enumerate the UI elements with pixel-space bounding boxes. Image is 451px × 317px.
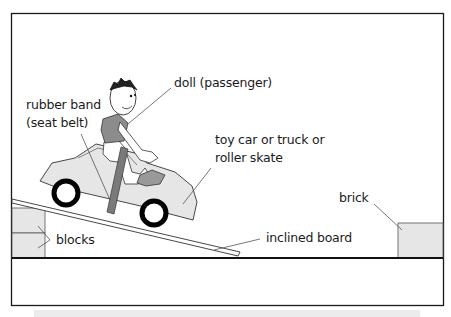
rubber-band-label-line1: rubber band xyxy=(26,96,101,113)
brick-icon xyxy=(398,223,443,258)
blocks-icon xyxy=(12,208,45,258)
car-label-line2: roller skate xyxy=(215,149,283,166)
car-label-line1: toy car or truck or xyxy=(215,131,324,148)
rubber-band-label-line2: (seat belt) xyxy=(26,114,88,131)
doll-label: doll (passenger) xyxy=(174,74,272,91)
blocks-label: blocks xyxy=(56,231,94,248)
bottom-shadow-strip xyxy=(34,310,420,317)
inclined-board-label: inclined board xyxy=(266,229,352,246)
brick-label: brick xyxy=(339,189,369,206)
diagram: doll (passenger) rubber band (seat belt)… xyxy=(0,0,451,317)
